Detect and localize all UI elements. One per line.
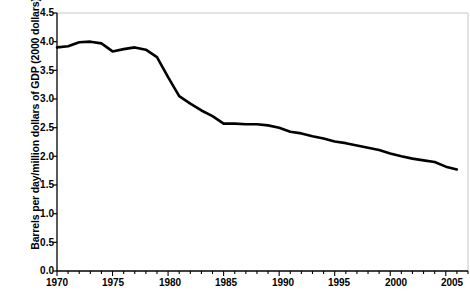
plot-area <box>0 0 470 305</box>
data-series-line <box>57 42 457 170</box>
chart-figure: Barrels per day/million dollars of GDP (… <box>0 0 470 305</box>
x-axis-ticks <box>57 271 468 276</box>
